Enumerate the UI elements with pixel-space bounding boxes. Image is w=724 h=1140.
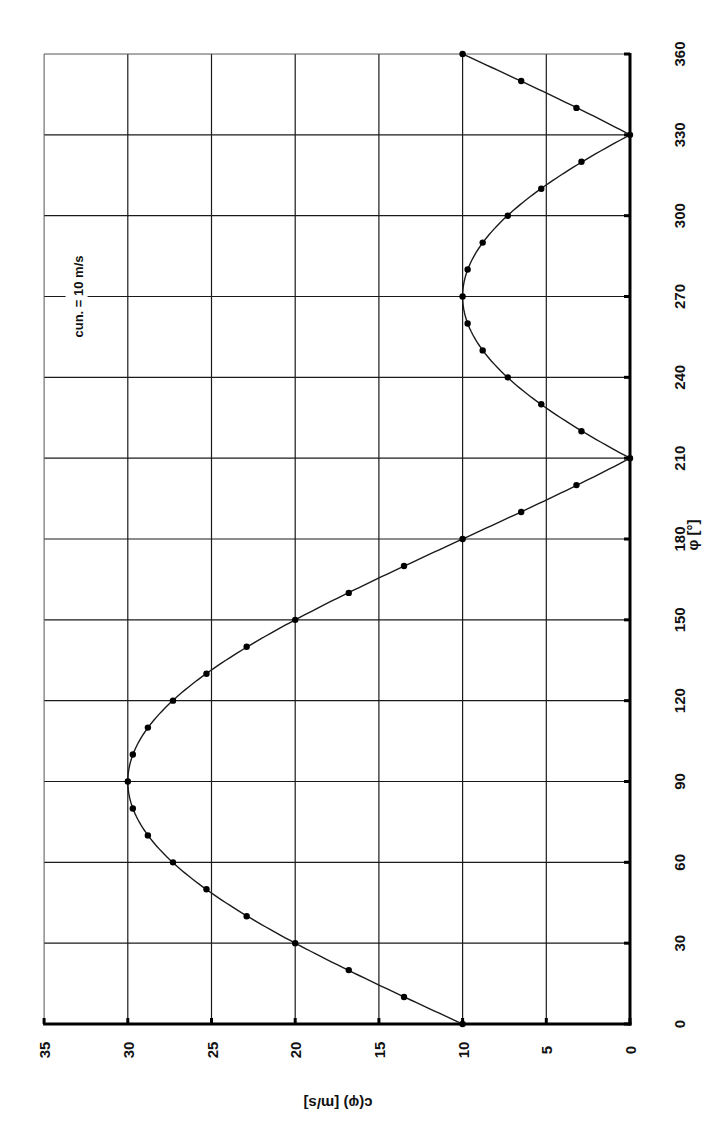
data-point [627, 132, 633, 138]
data-point [125, 778, 131, 784]
data-point [578, 428, 584, 434]
phi-tick-label: 30 [671, 935, 688, 952]
data-point [464, 320, 470, 326]
phi-tick-label: 210 [671, 446, 688, 471]
data-point [479, 347, 485, 353]
data-point [573, 482, 579, 488]
data-point [243, 644, 249, 650]
c-axis-tick-labels: 05101520253035 [36, 1042, 639, 1059]
data-point [505, 374, 511, 380]
data-point [401, 994, 407, 1000]
data-point [459, 1021, 465, 1027]
data-point [243, 913, 249, 919]
data-point [459, 293, 465, 299]
c-tick-label: 25 [204, 1042, 221, 1059]
data-point [459, 536, 465, 542]
data-point [203, 671, 209, 677]
chart: 0306090120150180210240270300330360 05101… [0, 0, 724, 1140]
phi-tick-label: 330 [671, 122, 688, 147]
data-point [538, 401, 544, 407]
cun-annotation: cun. = 10 m/s [71, 256, 86, 338]
data-point [578, 159, 584, 165]
data-point [170, 697, 176, 703]
c-tick-label: 35 [36, 1042, 53, 1059]
data-point [292, 617, 298, 623]
c-tick-label: 10 [455, 1042, 472, 1059]
data-point [627, 455, 633, 461]
phi-tick-label: 240 [671, 365, 688, 390]
data-point [459, 51, 465, 57]
phi-tick-label: 360 [671, 42, 688, 67]
data-point [346, 967, 352, 973]
c-tick-label: 0 [622, 1046, 639, 1054]
phi-axis-title: φ [°] [684, 520, 701, 551]
phi-tick-label: 300 [671, 203, 688, 228]
phi-tick-label: 60 [671, 854, 688, 871]
data-point [130, 805, 136, 811]
data-point [130, 751, 136, 757]
c-axis-title: c(φ) [m/s] [303, 1095, 372, 1112]
data-point [518, 509, 524, 515]
phi-tick-label: 120 [671, 688, 688, 713]
phi-tick-label: 150 [671, 607, 688, 632]
data-point [203, 886, 209, 892]
c-tick-label: 30 [120, 1042, 137, 1059]
phi-tick-label: 90 [671, 773, 688, 790]
data-point [401, 563, 407, 569]
data-point [170, 859, 176, 865]
phi-tick-label: 270 [671, 284, 688, 309]
data-point [518, 78, 524, 84]
data-point [538, 186, 544, 192]
data-point [145, 724, 151, 730]
data-point [479, 239, 485, 245]
data-point [292, 940, 298, 946]
data-point [505, 212, 511, 218]
data-point [464, 266, 470, 272]
data-point [346, 590, 352, 596]
phi-tick-label: 0 [671, 1020, 688, 1028]
data-point [573, 105, 579, 111]
c-tick-label: 20 [287, 1042, 304, 1059]
grid [44, 54, 630, 1024]
c-tick-label: 15 [371, 1042, 388, 1059]
data-point [145, 832, 151, 838]
c-tick-label: 5 [538, 1046, 555, 1054]
